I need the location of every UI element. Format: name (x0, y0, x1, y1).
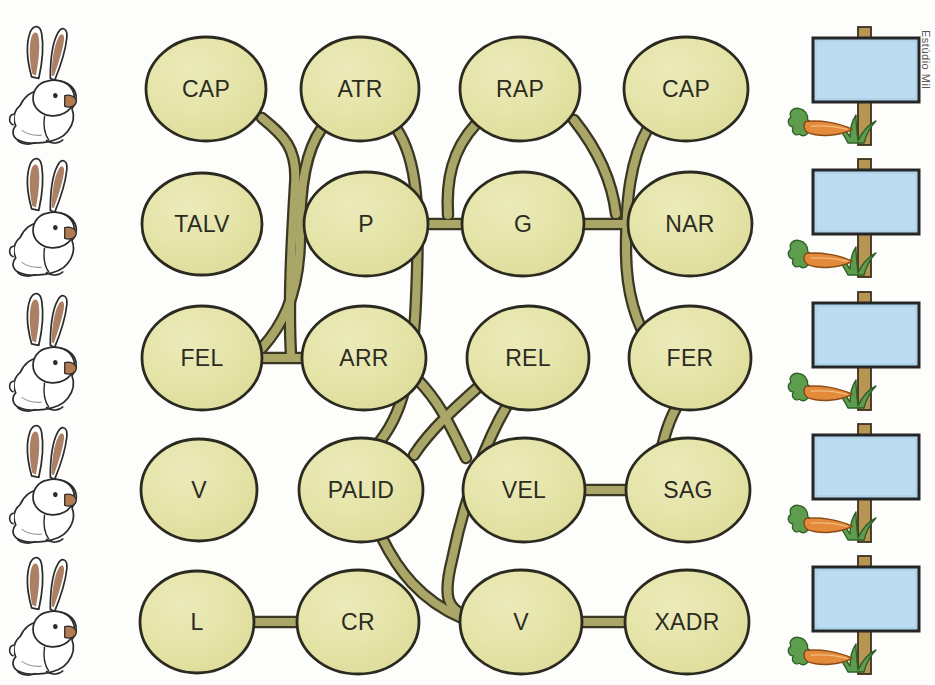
word-node[interactable]: SAG (626, 438, 750, 542)
signpost-icon[interactable] (788, 556, 919, 674)
word-node[interactable]: PALID (299, 438, 423, 542)
word-node[interactable]: TALV (142, 173, 262, 275)
carrot-glyph (788, 240, 852, 267)
node-label: L (190, 609, 203, 635)
node-label: RAP (496, 76, 544, 102)
word-node[interactable]: VEL (463, 438, 585, 542)
node-label: XADR (654, 609, 719, 635)
rabbit-icon (10, 27, 77, 144)
node-label: FER (667, 345, 714, 371)
node-label: VEL (502, 477, 546, 503)
node-label: CR (341, 609, 375, 635)
signpost-icon[interactable] (788, 159, 919, 277)
node-label: CAP (182, 76, 230, 102)
rabbit-glyph (10, 159, 77, 276)
word-node[interactable]: CAP (146, 37, 266, 141)
node-label: REL (505, 345, 551, 371)
rabbit-icon (10, 159, 77, 276)
rabbit-glyph (10, 558, 77, 675)
credit-text: Estúdio Mil (920, 30, 932, 89)
word-node[interactable]: G (462, 172, 584, 276)
node-label: CAP (662, 76, 710, 102)
node-label: NAR (665, 211, 714, 237)
rabbit-icon (10, 426, 77, 543)
carrot-icon (788, 637, 852, 664)
node-label: SAG (663, 477, 712, 503)
word-node[interactable]: ATR (301, 37, 419, 141)
rabbit-glyph (10, 426, 77, 543)
signpost-icon[interactable] (788, 27, 919, 145)
carrot-glyph (788, 637, 852, 664)
rabbit-icon (10, 558, 77, 675)
carrot-icon (788, 108, 852, 135)
word-node[interactable]: L (140, 571, 254, 673)
signpost-icon[interactable] (788, 424, 919, 542)
node-label: G (514, 211, 532, 237)
node-label: FEL (180, 345, 223, 371)
word-path-diagram: CAPATRRAPCAPTALVPGNARFELARRRELFERVPALIDV… (0, 0, 935, 685)
word-node[interactable]: XADR (625, 570, 749, 674)
carrot-icon (788, 240, 852, 267)
carrot-icon (788, 373, 852, 400)
node-label: V (513, 609, 529, 635)
carrot-glyph (788, 505, 852, 532)
rabbit-glyph (10, 294, 77, 411)
node-label: PALID (328, 477, 394, 503)
word-node[interactable]: V (460, 570, 582, 674)
word-node[interactable]: RAP (460, 37, 580, 141)
word-node[interactable]: NAR (628, 172, 752, 276)
node-label: P (358, 211, 374, 237)
word-node[interactable]: ARR (302, 306, 426, 410)
word-node[interactable]: P (304, 172, 428, 276)
signpost-icon[interactable] (788, 292, 919, 410)
word-node[interactable]: REL (467, 306, 589, 410)
rabbit-glyph (10, 27, 77, 144)
node-label: V (191, 477, 207, 503)
rabbit-icon (10, 294, 77, 411)
node-label: TALV (174, 211, 230, 237)
carrot-glyph (788, 373, 852, 400)
word-node[interactable]: CAP (624, 37, 748, 141)
word-node[interactable]: FEL (142, 306, 262, 410)
carrot-icon (788, 505, 852, 532)
signpost-column (788, 27, 919, 674)
word-node[interactable]: FER (629, 306, 751, 410)
node-label: ATR (337, 76, 382, 102)
word-node[interactable]: CR (297, 570, 419, 674)
rabbit-column (10, 27, 77, 675)
node-label: ARR (339, 345, 388, 371)
word-node[interactable]: V (141, 439, 257, 541)
carrot-glyph (788, 108, 852, 135)
worksheet-canvas: CAPATRRAPCAPTALVPGNARFELARRRELFERVPALIDV… (0, 0, 935, 685)
